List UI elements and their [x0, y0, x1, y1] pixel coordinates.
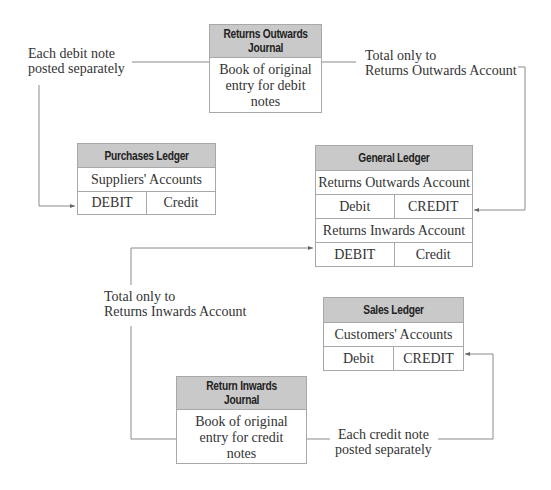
returns-outwards-journal: Returns Outwards Journal Book of origina… [209, 24, 322, 113]
customers-debit: Debit [324, 347, 394, 370]
returns-inwards-account: Returns Inwards Account [316, 219, 472, 243]
total-inwards-connector [131, 326, 176, 439]
sales-ledger-title: Sales Ledger [324, 298, 463, 323]
return-inwards-journal-description: Book of original entry for credit notes [177, 410, 306, 462]
returns-outwards-account-columns: Debit CREDIT [316, 195, 472, 219]
total-outwards-label: Total only to Returns Outwards Account [365, 48, 517, 78]
customers-credit: CREDIT [394, 347, 463, 370]
purchases-ledger-title: Purchases Ledger [78, 144, 215, 168]
debit-note-label: Each debit note posted separately [28, 46, 125, 76]
suppliers-debit: DEBIT [78, 192, 147, 214]
returns-outwards-credit: CREDIT [395, 195, 473, 218]
suppliers-accounts-columns: DEBIT Credit [78, 192, 215, 214]
total-outwards-arrow [474, 67, 525, 210]
credit-note-label: Each credit note posted separately [335, 427, 432, 457]
suppliers-accounts: Suppliers' Accounts [78, 168, 215, 192]
returns-outwards-account: Returns Outwards Account [316, 171, 472, 195]
customers-accounts: Customers' Accounts [324, 323, 463, 347]
returns-outwards-journal-description: Book of original entry for debit notes [210, 58, 321, 110]
returns-outwards-journal-title: Returns Outwards Journal [210, 25, 321, 58]
general-ledger: General Ledger Returns Outwards Account … [315, 145, 473, 267]
purchases-ledger: Purchases Ledger Suppliers' Accounts DEB… [77, 143, 216, 215]
customers-accounts-columns: Debit CREDIT [324, 347, 463, 370]
total-inwards-arrow [131, 248, 313, 285]
returns-inwards-account-columns: DEBIT Credit [316, 243, 472, 266]
return-inwards-journal-title: Return Inwards Journal [177, 377, 306, 410]
total-inwards-label: Total only to Returns Inwards Account [104, 289, 246, 319]
return-inwards-journal: Return Inwards Journal Book of original … [176, 376, 307, 464]
returns-inwards-debit: DEBIT [316, 243, 395, 266]
general-ledger-title: General Ledger [316, 146, 472, 171]
returns-outwards-debit: Debit [316, 195, 395, 218]
debit-note-arrow [39, 85, 75, 206]
returns-inwards-credit: Credit [395, 243, 473, 266]
sales-ledger: Sales Ledger Customers' Accounts Debit C… [323, 297, 464, 371]
suppliers-credit: Credit [147, 192, 215, 214]
